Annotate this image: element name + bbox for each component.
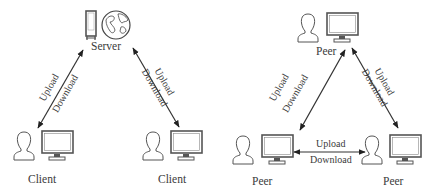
peer-top-label: Peer [316,45,336,57]
peer-bottom-upload-label: Upload [316,138,345,149]
client-right-computer-icon [171,131,202,160]
peer-left-user-icon [233,136,253,164]
server-tower-icon [86,11,96,40]
server-label: Server [91,40,121,52]
globe-icon [102,11,130,39]
client-left-computer-icon [42,131,73,160]
client-right-label: Client [158,173,186,185]
peer-left-label: Peer [252,175,272,187]
peer-left-top-arrow [300,50,345,130]
peer-left-computer-icon [262,135,293,164]
peer-bottom-download-label: Download [310,154,352,165]
peer-right-computer-icon [390,135,421,164]
peer-top-user-icon [298,14,318,42]
client-right-user-icon [143,132,163,160]
peer-right-user-icon [362,136,382,164]
peer-right-label: Peer [383,175,403,187]
peer-top-computer-icon [327,13,358,42]
client-left-label: Client [28,173,56,185]
client-left-user-icon [14,132,34,160]
